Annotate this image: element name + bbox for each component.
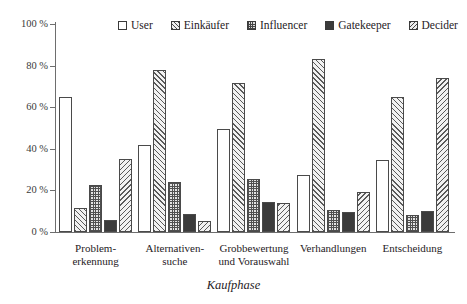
plot-area xyxy=(56,24,452,232)
bar-einkaeufer-group1[interactable] xyxy=(74,208,87,232)
bar-user-group2[interactable] xyxy=(138,145,151,232)
y-axis-tick xyxy=(50,232,55,233)
y-axis-labels: 100 %80 %60 %40 %20 %0 % xyxy=(0,0,48,304)
bar-chart: User Einkäufer Influencer Gatekeeper Dec… xyxy=(0,0,467,304)
y-axis-tick xyxy=(50,107,55,108)
y-axis-tick-label: 100 % xyxy=(4,19,48,29)
bar-gatekeeper-group3[interactable] xyxy=(262,202,275,232)
bar-user-group1[interactable] xyxy=(59,97,72,232)
bar-gatekeeper-group5[interactable] xyxy=(421,211,434,232)
bar-influencer-group5[interactable] xyxy=(406,215,419,232)
bar-user-group4[interactable] xyxy=(297,175,310,232)
bar-decider-group5[interactable] xyxy=(436,78,449,232)
x-axis-title: Kaufphase xyxy=(0,278,467,293)
bar-einkaeufer-group2[interactable] xyxy=(153,70,166,232)
x-axis-line xyxy=(55,232,455,233)
x-axis-label-5: Entscheidung xyxy=(364,242,460,255)
y-axis-tick-label: 60 % xyxy=(4,102,48,112)
bar-gatekeeper-group2[interactable] xyxy=(183,214,196,232)
y-axis-tick xyxy=(50,149,55,150)
bar-group-3 xyxy=(214,24,293,232)
bar-gatekeeper-group4[interactable] xyxy=(342,212,355,232)
bar-decider-group3[interactable] xyxy=(277,203,290,232)
y-axis-tick-label: 80 % xyxy=(4,61,48,71)
x-axis-label-line: und Vorauswahl xyxy=(206,255,302,268)
y-axis-tick xyxy=(50,24,55,25)
bar-influencer-group1[interactable] xyxy=(89,185,102,232)
bar-einkaeufer-group5[interactable] xyxy=(391,97,404,232)
bar-decider-group1[interactable] xyxy=(119,159,132,232)
bar-decider-group2[interactable] xyxy=(198,221,211,232)
x-axis-label-line: Entscheidung xyxy=(364,242,460,255)
bar-decider-group4[interactable] xyxy=(357,192,370,232)
y-axis-tick-label: 20 % xyxy=(4,185,48,195)
bar-einkaeufer-group3[interactable] xyxy=(232,83,245,232)
bar-group-5 xyxy=(373,24,452,232)
bar-gatekeeper-group1[interactable] xyxy=(104,220,117,232)
bar-influencer-group2[interactable] xyxy=(168,182,181,232)
bar-group-4 xyxy=(294,24,373,232)
bar-user-group3[interactable] xyxy=(217,129,230,232)
bar-user-group5[interactable] xyxy=(376,160,389,232)
bar-influencer-group4[interactable] xyxy=(327,210,340,232)
y-axis-tick-label: 0 % xyxy=(4,227,48,237)
bar-influencer-group3[interactable] xyxy=(247,179,260,232)
bar-einkaeufer-group4[interactable] xyxy=(312,59,325,232)
y-axis-tick xyxy=(50,66,55,67)
y-axis-tick-label: 40 % xyxy=(4,144,48,154)
bar-group-1 xyxy=(56,24,135,232)
y-axis-tick xyxy=(50,190,55,191)
bar-group-2 xyxy=(135,24,214,232)
